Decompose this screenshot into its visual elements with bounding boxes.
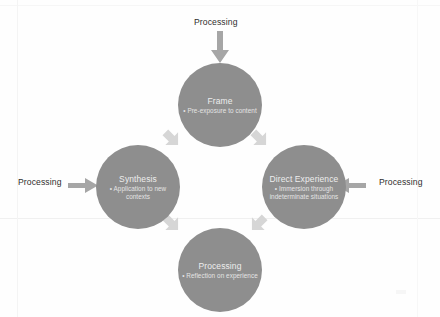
external-input-label-right: Processing	[379, 177, 423, 187]
scan-artifact-horizontal-top	[0, 5, 440, 6]
node-frame[interactable]: Frame • Pre-exposure to content	[178, 63, 262, 147]
node-synthesis[interactable]: Synthesis • Application to new contexts	[96, 145, 180, 229]
node-frame-title: Frame	[207, 96, 232, 106]
node-direct-experience-bullet-text: Immersion through indeterminate situatio…	[270, 185, 339, 199]
node-synthesis-title: Synthesis	[119, 174, 157, 184]
connector-arrow-upper-left	[160, 127, 182, 149]
scan-artifact-horizontal	[0, 218, 440, 219]
scan-smudge	[396, 290, 406, 294]
external-input-label-left: Processing	[18, 177, 62, 187]
bullet-glyph: •	[182, 272, 184, 279]
bullet-glyph: •	[275, 185, 277, 192]
node-frame-bullet: • Pre-exposure to content	[183, 107, 256, 114]
node-processing[interactable]: Processing • Reflection on experience	[178, 228, 262, 312]
bullet-glyph: •	[183, 107, 185, 114]
diagram-canvas: Processing Processing Processing Frame	[0, 0, 440, 317]
node-processing-bullet-text: Reflection on experience	[186, 272, 258, 279]
node-synthesis-bullet-text: Application to new contexts	[114, 185, 167, 199]
scan-artifact-vertical-left	[17, 0, 18, 317]
node-processing-bullet: • Reflection on experience	[182, 272, 258, 279]
connector-arrow-lower-right	[248, 212, 270, 234]
node-direct-experience-title: Direct Experience	[270, 174, 339, 184]
bullet-glyph: •	[110, 185, 112, 192]
scan-artifact-vertical-right	[417, 0, 418, 317]
node-direct-experience[interactable]: Direct Experience • Immersion through in…	[262, 145, 346, 229]
node-direct-experience-bullet: • Immersion through indeterminate situat…	[265, 185, 343, 200]
arrow-down-icon-top	[211, 31, 229, 63]
node-frame-bullet-text: Pre-exposure to content	[187, 107, 256, 114]
arrow-right-icon-left	[68, 178, 98, 193]
node-synthesis-bullet: • Application to new contexts	[99, 185, 177, 200]
external-input-label-top: Processing	[194, 17, 238, 27]
node-processing-title: Processing	[198, 261, 241, 271]
